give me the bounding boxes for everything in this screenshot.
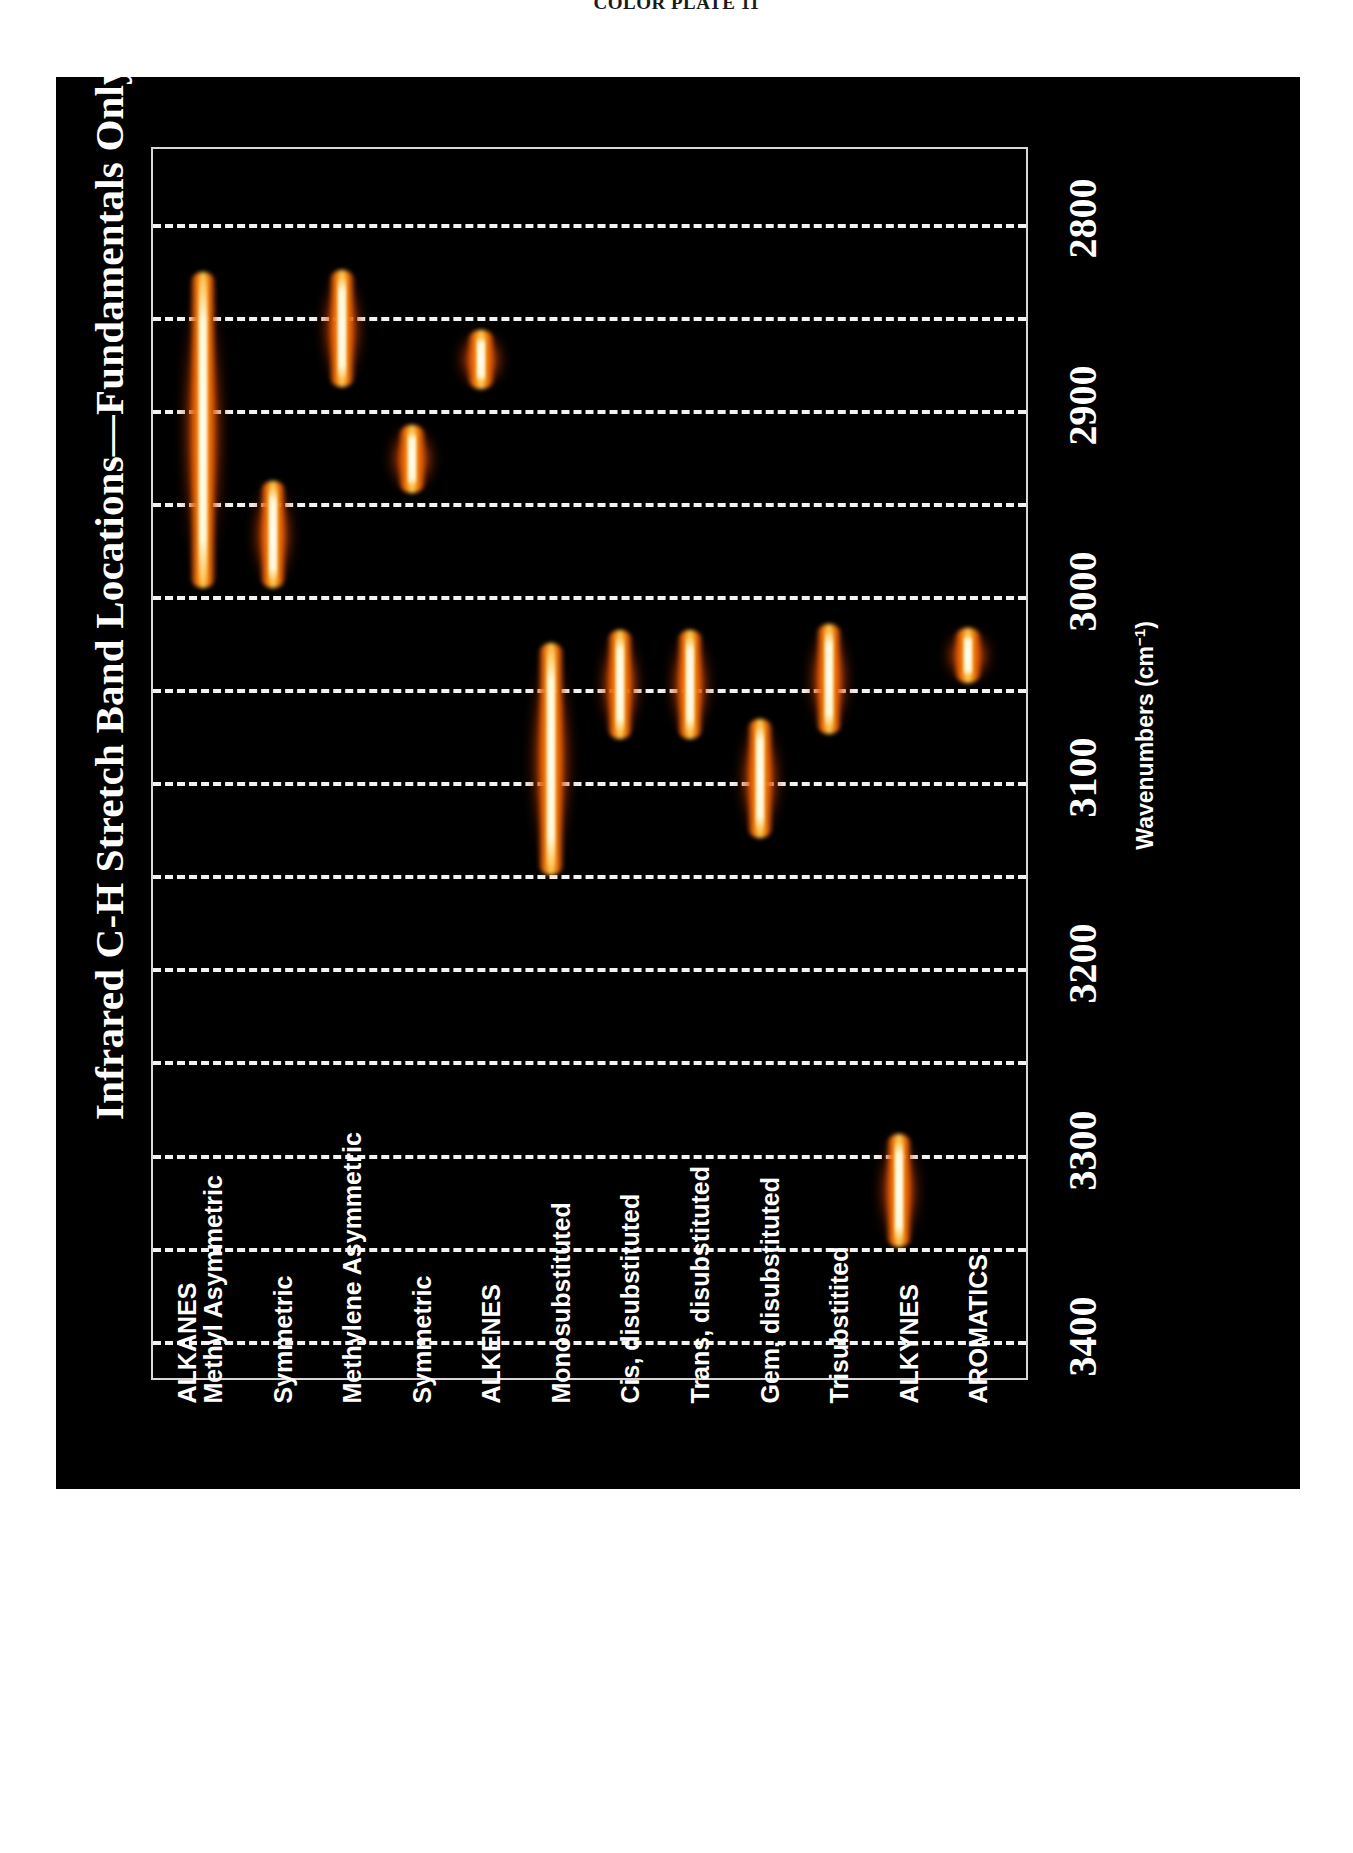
- band-11: [869, 1132, 929, 1249]
- band-core: [338, 277, 346, 380]
- band-1: [173, 270, 233, 590]
- axis-tick-3300: 3300: [1059, 1070, 1106, 1230]
- gridline-3200: [153, 968, 1026, 972]
- axis-tick-3400: 3400: [1059, 1256, 1106, 1416]
- chart-title: Infrared C-H Stretch Band Locations—Fund…: [85, 140, 133, 1120]
- band-8: [660, 628, 720, 742]
- band-core: [756, 726, 764, 831]
- category-label-1-line2: Methyl Asymmetric: [199, 1175, 228, 1403]
- band-core: [477, 337, 485, 382]
- band-2: [243, 479, 303, 591]
- axis-tick-3200: 3200: [1059, 884, 1106, 1044]
- category-label-1-line1: ALKANES: [173, 1283, 202, 1404]
- axis-title-close: ): [1132, 621, 1158, 629]
- plot-area: [151, 147, 1028, 1380]
- axis-tick-2800: 2800: [1059, 139, 1106, 299]
- band-3: [312, 268, 372, 389]
- category-label-6: Monosubstituted: [546, 1202, 575, 1403]
- band-core: [547, 650, 555, 869]
- band-6: [521, 641, 581, 878]
- band-core: [616, 637, 624, 733]
- band-7: [590, 628, 650, 742]
- category-label-7: Cis, disubstituted: [616, 1194, 645, 1404]
- gridline-3100: [153, 782, 1026, 786]
- gridline-2800: [153, 224, 1026, 228]
- figure-panel: Infrared C-H Stretch Band Locations—Fund…: [56, 77, 1300, 1489]
- axis-tick-3000: 3000: [1059, 511, 1106, 671]
- category-label-12: AROMATICS: [964, 1254, 993, 1404]
- band-core: [269, 488, 277, 582]
- band-core: [825, 631, 833, 727]
- category-label-11: ALKYNES: [894, 1284, 923, 1403]
- gridline-3250: [153, 1061, 1026, 1065]
- axis-tick-2900: 2900: [1059, 325, 1106, 485]
- gridline-3000: [153, 596, 1026, 600]
- category-label-10: Trisubstitited: [825, 1247, 854, 1404]
- axis-title-main: Wavenumbers (cm: [1132, 646, 1158, 850]
- band-core: [686, 637, 694, 733]
- axis-title: Wavenumbers (cm−1): [1131, 525, 1160, 945]
- band-4: [382, 423, 442, 496]
- band-9: [730, 717, 790, 840]
- band-12: [938, 626, 998, 686]
- category-label-9: Gem, disubstituted: [755, 1177, 784, 1403]
- gridline-3150: [153, 875, 1026, 879]
- axis-tick-3100: 3100: [1059, 698, 1106, 858]
- band-core: [895, 1141, 903, 1240]
- gridline-2900: [153, 410, 1026, 414]
- category-label-2: Symmetric: [268, 1276, 297, 1404]
- gridline-2850: [153, 317, 1026, 321]
- band-core: [408, 432, 416, 487]
- band-core: [199, 279, 207, 581]
- category-label-8: Trans, disubstituted: [686, 1166, 715, 1404]
- color-plate-caption: COLOR PLATE 11: [0, 0, 1353, 14]
- category-label-4: Symmetric: [407, 1276, 436, 1404]
- plot-inner: [153, 149, 1026, 1378]
- category-label-5: ALKENES: [477, 1284, 506, 1403]
- band-core: [964, 635, 972, 677]
- category-label-3: Methylene Asymmetric: [338, 1132, 367, 1403]
- band-10: [799, 622, 859, 736]
- band-5: [451, 328, 511, 391]
- axis-title-superscript: −1: [1131, 629, 1148, 646]
